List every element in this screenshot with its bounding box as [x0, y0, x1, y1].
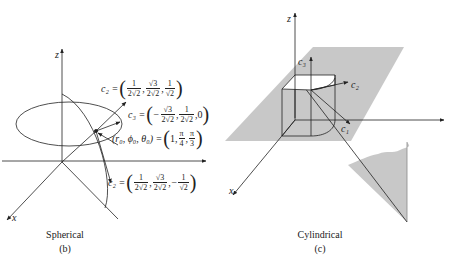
sublabel-b: (b)	[50, 244, 80, 254]
z-axis-label-c: z	[287, 14, 291, 24]
caption-spherical: Spherical	[40, 230, 90, 240]
sublabel-c: (c)	[305, 244, 335, 254]
vector-c1-label: c₁	[341, 124, 349, 134]
point-marker	[94, 129, 97, 132]
equation-point: (r₀, ϕ₀, θ₀) = ( 1 , π4 , π3 )	[111, 128, 203, 148]
shaded-plane	[225, 47, 404, 141]
shaded-wedge	[348, 142, 409, 222]
equation-e2-upper: c₂ = ( 12√2 , √32√2 , 1√2 )	[100, 78, 183, 98]
latitude-ellipse	[16, 102, 122, 146]
diagram-canvas	[0, 0, 449, 257]
caption-cylindrical: Cylindrical	[290, 230, 350, 240]
x-axis-label-c: x	[229, 186, 233, 196]
equation-e3: c₃ = ( − √32√2 , 12√2 , 0 )	[127, 104, 209, 124]
radius-line-b	[62, 131, 96, 162]
meridian-arc	[62, 94, 108, 208]
vector-c2-label: c₂	[351, 80, 359, 90]
equation-e2-lower: c₂ = ( 12√2 , √32√2 , − 1√2 )	[107, 172, 196, 192]
vector-c3-label: c₃	[298, 57, 306, 67]
z-axis-label-b: z	[55, 50, 59, 60]
cylindrical-figure	[225, 13, 444, 222]
x-axis-label-b: x	[12, 213, 16, 223]
